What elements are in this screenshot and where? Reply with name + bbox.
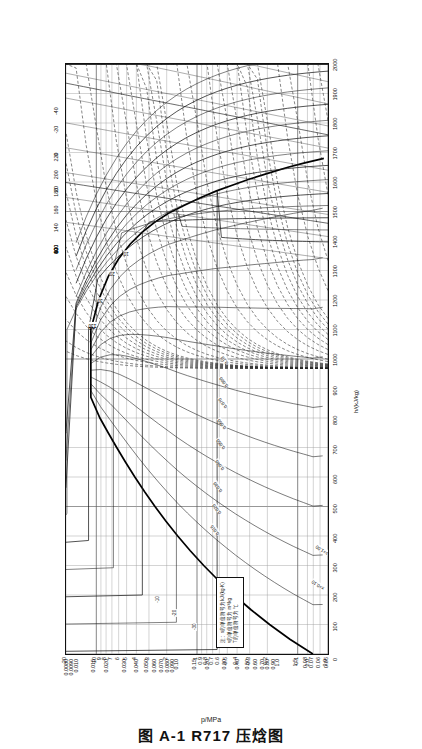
- temperature-tick-label: -20: [54, 126, 59, 134]
- enthalpy-tick-label: 500: [333, 504, 339, 513]
- isochore-tick-label: 0.15: [192, 659, 197, 707]
- chart-curves: [66, 64, 328, 654]
- isochore-tick-label: 0.060: [152, 659, 157, 707]
- isochore-tick-label: 0.50: [245, 659, 250, 707]
- enthalpy-tick-label: 100: [333, 622, 339, 631]
- temperature-tick-label: 220: [54, 152, 59, 161]
- enthalpy-tick-label: 1900: [333, 88, 339, 100]
- plot-area: 102030405060708090100110120130-10-20-30x…: [65, 63, 329, 655]
- temperature-tick-label: -40: [54, 107, 59, 115]
- enthalpy-tick-label: 1300: [333, 265, 339, 277]
- curve-label: 130: [88, 323, 97, 328]
- enthalpy-tick-label: 1100: [333, 324, 339, 336]
- enthalpy-tick-label: 1400: [333, 236, 339, 248]
- enthalpy-tick-label: 400: [333, 534, 339, 543]
- enthalpy-tick-label: 0: [333, 658, 339, 661]
- figure-caption: 图 A-1 R717 压焓图: [0, 724, 422, 745]
- enthalpy-tick-label: 1500: [333, 206, 339, 218]
- enthalpy-tick-label: 300: [333, 563, 339, 572]
- enthalpy-tick-label: 600: [333, 475, 339, 484]
- enthalpy-tick-label: 700: [333, 445, 339, 454]
- curve-label: 10: [124, 251, 130, 256]
- isochore-tick-label: 1.5: [293, 659, 298, 707]
- enthalpy-tick-label: 1200: [333, 295, 339, 307]
- figure-root: 102030405060708090100110120130-10-20-30x…: [0, 0, 422, 749]
- pressure-tick-label: 6: [115, 657, 121, 671]
- isochore-tick-label: 0.040: [134, 659, 139, 707]
- curve-label: 20: [110, 271, 116, 276]
- enthalpy-tick-label: 1700: [333, 147, 339, 159]
- enthalpy-tick-label: 1000: [333, 354, 339, 366]
- isochore-tick-label: 2.0: [305, 659, 310, 707]
- curve-label: -20: [173, 609, 178, 617]
- isochore-tick-label: 0.010: [74, 659, 79, 707]
- isochore-tick-label: 0.015: [91, 659, 96, 707]
- isochore-tick-label: 0.050: [144, 659, 149, 707]
- temperature-tick-label: 120: [54, 245, 59, 254]
- temperature-tick-label: 180: [54, 188, 59, 197]
- pressure-tick-label: 0.06: [316, 657, 322, 671]
- ph-chart: 102030405060708090100110120130-10-20-30x…: [35, 37, 387, 713]
- temperature-tick-label: 140: [54, 223, 59, 232]
- temperature-tick-label: 200: [54, 170, 59, 179]
- isochore-tick-label: 3.0: [323, 659, 328, 707]
- enthalpy-tick-label: 2000: [333, 59, 339, 71]
- legend-note-line-1: 注：s的单位符号为kJ/(kg·K): [220, 582, 227, 643]
- pressure-axis-title: p/MPa: [0, 716, 422, 723]
- isochore-tick-label: 0.30: [222, 659, 227, 707]
- enthalpy-tick-label: 200: [333, 593, 339, 602]
- isochore-tick-label: 0.60: [253, 659, 258, 707]
- isochore-tick-label: 1.0: [275, 659, 280, 707]
- isochore-tick-label: 0.20: [205, 659, 210, 707]
- legend-note-line-3: T的单位符号为 ℃: [233, 582, 240, 643]
- enthalpy-tick-label: 800: [333, 416, 339, 425]
- curve-label: 30: [97, 298, 103, 303]
- enthalpy-axis-title: h/(kJ/kg): [353, 390, 359, 413]
- isochore-tick-label: 0.40: [235, 659, 240, 707]
- isochore-tick-label: 0.020: [104, 659, 109, 707]
- rotated-chart-wrapper: 102030405060708090100110120130-10-20-30x…: [35, 37, 387, 713]
- curve-label: -10: [156, 596, 161, 604]
- enthalpy-tick-label: 1600: [333, 177, 339, 189]
- enthalpy-tick-label: 900: [333, 386, 339, 395]
- isochore-tick-label: 0.030: [122, 659, 127, 707]
- curve-label: -30: [193, 623, 198, 631]
- isochore-tick-label: 0.10: [174, 659, 179, 707]
- enthalpy-tick-label: 1800: [333, 118, 339, 130]
- pressure-tick-label: 0.6: [215, 657, 221, 671]
- temperature-tick-label: 160: [54, 206, 59, 215]
- legend-note-box: 注：s的单位符号为kJ/(kg·K) v的单位符号为 m³/kg T的单位符号为…: [216, 577, 244, 648]
